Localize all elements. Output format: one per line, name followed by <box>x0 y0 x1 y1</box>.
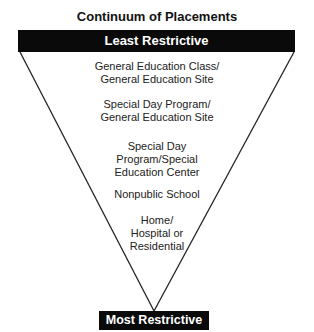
placement-line: Special Day Program/ <box>57 98 257 111</box>
placement-line: General Education Site <box>57 111 257 124</box>
placement-item: Home/ Hospital or Residential <box>57 214 257 253</box>
least-restrictive-banner: Least Restrictive <box>18 30 295 52</box>
placement-line: Program/Special <box>57 153 257 166</box>
placement-line: Home/ <box>57 214 257 227</box>
most-restrictive-banner: Most Restrictive <box>99 311 209 330</box>
placement-line: Education Center <box>57 166 257 179</box>
placement-line: Special Day <box>57 140 257 153</box>
placement-line: Residential <box>57 240 257 253</box>
placement-item: General Education Class/ General Educati… <box>57 60 257 86</box>
placement-line: Hospital or <box>57 227 257 240</box>
placement-item: Special Day Program/ General Education S… <box>57 98 257 124</box>
placement-line: General Education Site <box>57 73 257 86</box>
placement-item: Special Day Program/Special Education Ce… <box>57 140 257 179</box>
placement-item: Nonpublic School <box>57 188 257 201</box>
triangle-right-edge <box>154 52 294 311</box>
placement-line: General Education Class/ <box>57 60 257 73</box>
triangle-left-edge <box>20 52 154 311</box>
placement-line: Nonpublic School <box>57 188 257 201</box>
